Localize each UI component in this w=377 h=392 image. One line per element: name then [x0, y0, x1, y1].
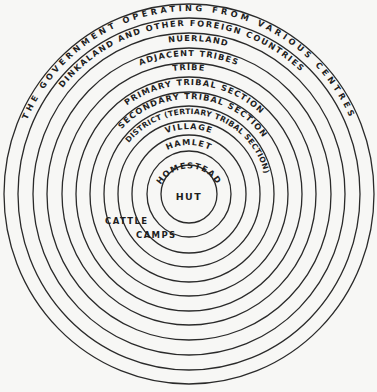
cattle-camps-label: CATTLE CAMPS: [105, 216, 177, 240]
label-tribe: TRIBE: [172, 62, 206, 73]
concentric-social-space-diagram: HUT HOMESTEAD HAMLET VILLAGE DISTRICT (T…: [0, 0, 377, 392]
label-homestead: HOMESTEAD: [154, 160, 224, 186]
label-hut: HUT: [176, 191, 203, 202]
ring-labels: HOMESTEAD HAMLET VILLAGE DISTRICT (TERTI…: [20, 3, 358, 186]
label-camps: CAMPS: [136, 230, 177, 240]
label-cattle: CATTLE: [105, 216, 149, 226]
label-nuerland: NUERLAND: [167, 33, 230, 48]
label-hamlet: HAMLET: [164, 137, 214, 152]
